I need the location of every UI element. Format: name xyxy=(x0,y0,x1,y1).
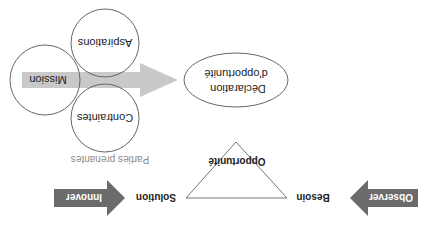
declaration-line2: d'opportunité xyxy=(204,68,267,80)
solution-label: Solution xyxy=(136,192,176,203)
mission-label: Mission xyxy=(29,74,66,86)
aspirations-label: Aspirations xyxy=(77,37,132,49)
observer-label: Observer xyxy=(369,192,413,203)
diagram-svg: Aspirations Mission Contraintes Déclarat… xyxy=(0,0,433,236)
diagram-canvas: Aspirations Mission Contraintes Déclarat… xyxy=(0,0,433,236)
besoin-label: Besoin xyxy=(296,192,329,203)
declaration-line1: Déclaration xyxy=(210,83,266,95)
innover-label: Innover xyxy=(66,192,102,203)
opportunity-triangle xyxy=(186,142,287,198)
opportunite-label: Opportunité xyxy=(208,156,266,167)
parties-prenantes-label: Parties prenantes xyxy=(71,154,149,165)
contraintes-label: Contraintes xyxy=(76,112,133,124)
